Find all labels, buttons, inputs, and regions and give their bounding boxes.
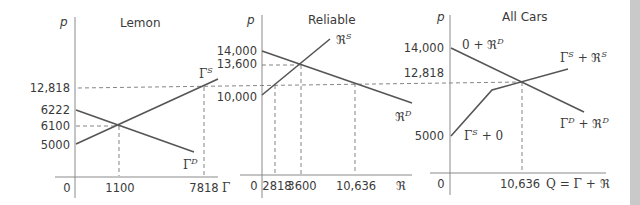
panel-reliable: p Reliable 14,000 13,600 10,000 0 2818 3… bbox=[217, 13, 412, 198]
chart-canvas: p Lemon 12,818 6222 6100 5000 0 1100 781… bbox=[0, 0, 640, 205]
page-edge-strip bbox=[630, 0, 640, 205]
reliable-demand-label: ℜD bbox=[395, 109, 412, 124]
reliable-xtick-0: 0 bbox=[250, 179, 257, 193]
lemon-ytick-5000: 5000 bbox=[41, 138, 70, 152]
reliable-title: Reliable bbox=[308, 13, 356, 27]
reliable-ytick-14000: 14,000 bbox=[217, 44, 257, 58]
lemon-demand-label: ΓD bbox=[183, 157, 198, 172]
reliable-supply-curve bbox=[262, 39, 330, 95]
allcars-demand-total-label: ΓD + ℜD bbox=[560, 116, 609, 131]
lemon-x-label: Γ bbox=[222, 181, 230, 195]
reliable-ytick-10000: 10,000 bbox=[217, 90, 257, 104]
reliable-ytick-13600: 13,600 bbox=[217, 57, 257, 71]
allcars-demand-top-label: 0 + ℜD bbox=[462, 37, 504, 52]
reliable-x-label: ℜ bbox=[396, 179, 406, 193]
reliable-p-label: p bbox=[246, 13, 255, 27]
lemon-ytick-6222: 6222 bbox=[41, 103, 70, 117]
allcars-ytick-5000: 5000 bbox=[415, 129, 444, 143]
lemon-ytick-12818: 12,818 bbox=[30, 81, 70, 95]
reliable-supply-label: ℜS bbox=[336, 32, 352, 47]
allcars-p-label: p bbox=[436, 10, 445, 24]
lemon-title: Lemon bbox=[120, 16, 161, 30]
lemon-ytick-6100: 6100 bbox=[41, 119, 70, 133]
allcars-ytick-12818: 12,818 bbox=[404, 66, 444, 80]
allcars-supply-bottom-label: ΓS + 0 bbox=[464, 128, 503, 143]
allcars-supply-curve bbox=[451, 69, 568, 136]
reliable-xtick-3600: 3600 bbox=[287, 179, 316, 193]
reliable-xtick-10636: 10,636 bbox=[336, 179, 376, 193]
allcars-x-label: Q = Γ + ℜ bbox=[546, 177, 610, 191]
lemon-xtick-1100: 1100 bbox=[105, 181, 134, 195]
lemon-xtick-7818: 7818 bbox=[189, 181, 218, 195]
allcars-ytick-14000: 14,000 bbox=[404, 41, 444, 55]
dashed-line-12818 bbox=[78, 82, 522, 88]
allcars-title: All Cars bbox=[502, 10, 548, 24]
lemon-supply-label: ΓS bbox=[199, 66, 213, 81]
figure: p Lemon 12,818 6222 6100 5000 0 1100 781… bbox=[0, 0, 640, 205]
panel-lemon: p Lemon 12,818 6222 6100 5000 0 1100 781… bbox=[30, 15, 231, 198]
lemon-supply-curve bbox=[76, 79, 218, 144]
allcars-xtick-10636: 10,636 bbox=[500, 177, 540, 191]
lemon-xtick-0: 0 bbox=[63, 181, 70, 195]
allcars-xtick-0: 0 bbox=[437, 177, 444, 191]
lemon-p-label: p bbox=[59, 15, 68, 29]
panel-all-cars: p All Cars 14,000 12,818 5000 0 10,636 Q… bbox=[404, 10, 610, 195]
allcars-supply-total-label: ΓS + ℜS bbox=[560, 50, 608, 65]
